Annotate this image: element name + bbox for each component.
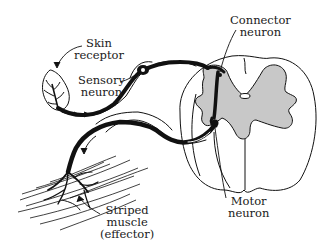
label-line: (effector) — [100, 228, 154, 240]
label-connector-neuron: Connector neuron — [230, 14, 291, 38]
central-canal — [240, 94, 250, 99]
label-line: neuron — [228, 207, 269, 219]
label-sensory-neuron: Sensory neuron — [78, 74, 125, 98]
label-line: neuron — [230, 26, 291, 38]
label-skin-receptor: Skin receptor — [74, 37, 124, 61]
motor-end-plates — [44, 172, 98, 210]
skin-receptor — [43, 70, 70, 110]
label-line: receptor — [74, 49, 124, 61]
label-motor-neuron: Motor neuron — [228, 195, 269, 219]
label-striped-muscle: Striped muscle (effector) — [100, 204, 154, 240]
label-line: neuron — [78, 86, 125, 98]
